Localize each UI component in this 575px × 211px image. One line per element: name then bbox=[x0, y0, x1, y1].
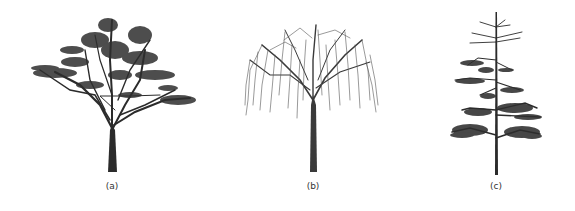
tree-broadleaf-icon bbox=[0, 0, 575, 211]
panel-label-a: (a) bbox=[92, 181, 132, 191]
tree-weeping-group bbox=[245, 25, 378, 172]
panel-label-b: (b) bbox=[293, 181, 333, 191]
panel-label-c: (c) bbox=[476, 181, 516, 191]
tree-conifer-group bbox=[452, 12, 540, 175]
